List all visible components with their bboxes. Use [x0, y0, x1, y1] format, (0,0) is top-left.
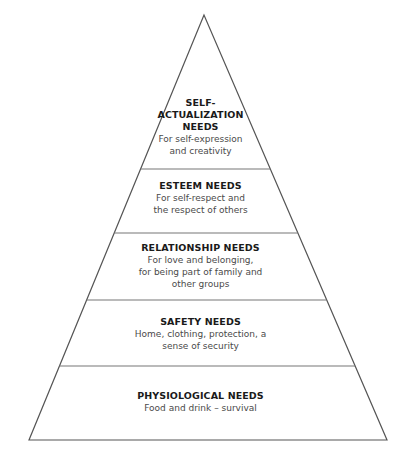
- tier-title: ESTEEM NEEDS: [0, 180, 401, 192]
- tier-description: Food and drink – survival: [0, 402, 401, 414]
- tier-title: PHYSIOLOGICAL NEEDS: [0, 390, 401, 402]
- tier-physiological: PHYSIOLOGICAL NEEDS Food and drink – sur…: [0, 390, 401, 414]
- tier-description: Home, clothing, protection, a sense of s…: [0, 328, 401, 352]
- tier-esteem: ESTEEM NEEDS For self-respect and the re…: [0, 180, 401, 216]
- pyramid-outline: [0, 0, 401, 451]
- pyramid-triangle: [29, 15, 387, 440]
- tier-description: For self-expression and creativity: [0, 133, 401, 157]
- tier-self-actualization: SELF- ACTUALIZATION NEEDS For self-expre…: [0, 97, 401, 157]
- tier-description: For love and belonging, for being part o…: [0, 254, 401, 290]
- tier-description: For self-respect and the respect of othe…: [0, 192, 401, 216]
- tier-title: RELATIONSHIP NEEDS: [0, 242, 401, 254]
- tier-title: SAFETY NEEDS: [0, 316, 401, 328]
- tier-relationship: RELATIONSHIP NEEDS For love and belongin…: [0, 242, 401, 290]
- tier-safety: SAFETY NEEDS Home, clothing, protection,…: [0, 316, 401, 352]
- tier-title: SELF- ACTUALIZATION NEEDS: [0, 97, 401, 133]
